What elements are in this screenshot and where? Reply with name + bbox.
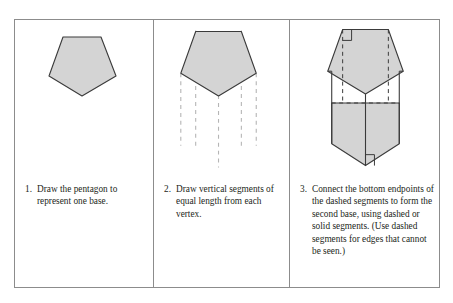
caption-number-1: 1.: [25, 183, 37, 195]
caption-step-3: 3. Connect the bottom endpoints of the d…: [290, 183, 441, 257]
caption-step-2: 2. Draw vertical segments of equal lengt…: [154, 183, 289, 220]
pentagon-base-illustration: [15, 20, 153, 184]
pentagon-with-segments-illustration: [154, 20, 289, 184]
pentagon-segments-svg: [154, 20, 289, 184]
pentagon-shape: [49, 37, 116, 96]
top-base-pentagon: [328, 29, 404, 94]
caption-text-1: Draw the pentagon to represent one base.: [37, 183, 145, 208]
caption-text-2: Draw vertical segments of equal length f…: [176, 183, 281, 220]
panel-step-2: 2. Draw vertical segments of equal lengt…: [153, 20, 289, 287]
pentagonal-prism-illustration: [290, 20, 441, 184]
caption-step-1: 1. Draw the pentagon to represent one ba…: [15, 183, 153, 208]
figure-frame: 1. Draw the pentagon to represent one ba…: [14, 19, 440, 288]
caption-number-3: 3.: [300, 183, 312, 195]
pentagon-shape: [181, 32, 256, 97]
pentagon-base-svg: [15, 20, 153, 184]
pentagonal-prism-svg: [290, 20, 441, 184]
caption-number-2: 2.: [164, 183, 176, 195]
panel-step-1: 1. Draw the pentagon to represent one ba…: [15, 20, 153, 287]
caption-text-3: Connect the bottom endpoints of the dash…: [312, 183, 437, 257]
panel-step-3: 3. Connect the bottom endpoints of the d…: [289, 20, 441, 287]
